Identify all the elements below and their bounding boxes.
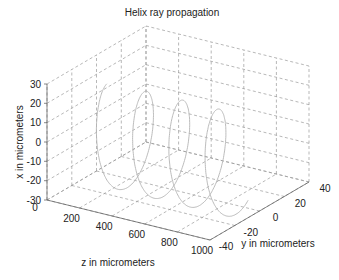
- y-tick-label: 0: [273, 212, 279, 223]
- z-tick-label: 1000: [191, 245, 214, 256]
- grid-line: [121, 157, 284, 197]
- grid-line: [146, 26, 309, 66]
- y-tick-label: 40: [319, 183, 331, 194]
- z-tick-label: 800: [161, 237, 178, 248]
- helix-ray-line: [96, 84, 248, 217]
- axis-lines: [47, 84, 309, 240]
- z-tick-label: 600: [128, 229, 145, 240]
- y-tick-label: 20: [295, 198, 307, 209]
- grid-line: [146, 84, 309, 124]
- x-tick-label: 10: [30, 117, 42, 128]
- grid-line: [146, 45, 309, 85]
- x-tick-label: 20: [30, 98, 42, 109]
- grid-lines: [47, 26, 309, 240]
- z-axis-label: z in micrometers: [81, 257, 154, 268]
- x-tick-label: -10: [27, 156, 42, 167]
- z-tick-label: 200: [63, 213, 80, 224]
- grid-line: [47, 45, 146, 103]
- chart-figure: Helix ray propagation -30-20-10010203002…: [0, 0, 339, 280]
- plot-area: Helix ray propagation -30-20-10010203002…: [0, 0, 339, 280]
- x-tick-label: -20: [27, 175, 42, 186]
- y-axis-label: y in micrometers: [241, 238, 314, 249]
- grid-line: [146, 142, 309, 182]
- y-tick-label: -20: [244, 227, 259, 238]
- z-tick-label: 0: [32, 202, 38, 213]
- y-axis-line: [210, 182, 309, 240]
- grid-line: [146, 65, 309, 105]
- x-tick-label: 0: [35, 137, 41, 148]
- y-tick-label: -40: [219, 241, 234, 252]
- grid-line: [146, 103, 309, 143]
- grid-line: [72, 186, 235, 226]
- z-tick-label: 400: [96, 221, 113, 232]
- chart-title: Helix ray propagation: [125, 7, 220, 18]
- x-axis-label: x in micrometers: [14, 105, 25, 178]
- helix-ray-curve: [96, 84, 248, 217]
- x-tick-label: 30: [30, 79, 42, 90]
